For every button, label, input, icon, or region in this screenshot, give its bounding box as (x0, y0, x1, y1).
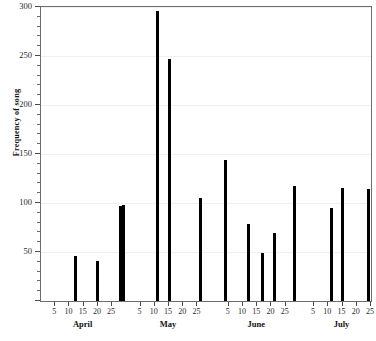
y-axis: Frequency of song 50100150200250300 (0, 0, 40, 341)
x-tick (313, 302, 314, 306)
x-month-label: July (312, 319, 372, 329)
x-tick (370, 302, 371, 306)
y-tick-label: 300 (19, 2, 32, 10)
gridline (41, 105, 371, 106)
bar (122, 205, 125, 301)
x-tick (256, 302, 257, 306)
bar (156, 11, 159, 301)
bar (341, 188, 344, 301)
x-tick (228, 302, 229, 306)
bar (330, 208, 333, 301)
bar (367, 189, 370, 301)
x-month-label: May (138, 319, 198, 329)
x-tick (342, 302, 343, 306)
gridline (41, 252, 371, 253)
x-tick (54, 302, 55, 306)
gridline (41, 56, 371, 57)
bar (247, 224, 250, 301)
x-axis: 510152025April510152025May510152025June5… (40, 302, 372, 341)
y-tick-label: 200 (19, 100, 32, 108)
y-tick-label: 150 (19, 149, 32, 157)
x-tick (111, 302, 112, 306)
x-tick (242, 302, 243, 306)
x-tick (97, 302, 98, 306)
x-tick (356, 302, 357, 306)
x-tick (182, 302, 183, 306)
x-tick (154, 302, 155, 306)
x-month-label: April (53, 319, 113, 329)
y-tick-label: 50 (24, 247, 33, 255)
x-tick-label: 25 (276, 307, 294, 316)
plot-area (40, 6, 372, 302)
x-tick (168, 302, 169, 306)
bar (293, 186, 296, 301)
frequency-of-song-bar-chart: Frequency of song 50100150200250300 5101… (0, 0, 376, 341)
x-tick (285, 302, 286, 306)
bar (96, 261, 99, 301)
x-month-label: June (226, 319, 286, 329)
x-tick (68, 302, 69, 306)
gridline (41, 203, 371, 204)
x-tick (327, 302, 328, 306)
x-tick (196, 302, 197, 306)
bar (261, 253, 264, 301)
x-tick-label: 25 (187, 307, 205, 316)
bar (74, 256, 77, 301)
bar (273, 233, 276, 301)
y-tick-label: 250 (19, 51, 32, 59)
x-tick-label: 25 (361, 307, 376, 316)
gridline (41, 154, 371, 155)
bar (224, 160, 227, 301)
gridline (41, 7, 371, 8)
x-tick (140, 302, 141, 306)
bar (168, 59, 171, 301)
x-tick (83, 302, 84, 306)
x-tick (270, 302, 271, 306)
y-tick-label: 100 (19, 198, 32, 206)
x-tick-label: 25 (102, 307, 120, 316)
bar (199, 198, 202, 301)
